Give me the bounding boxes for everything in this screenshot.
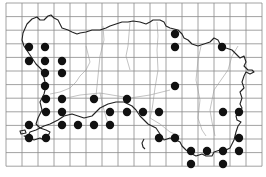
- record-dot: [42, 108, 50, 116]
- harbour-islet: [20, 130, 26, 134]
- elizabeth-castle-islet: [142, 139, 145, 149]
- record-dot: [123, 95, 131, 103]
- record-dot: [219, 147, 227, 155]
- record-dot: [235, 147, 243, 155]
- record-dot: [123, 108, 131, 116]
- record-dot: [42, 95, 50, 103]
- record-dot: [41, 69, 49, 77]
- record-dot: [41, 43, 49, 51]
- record-dot: [41, 82, 49, 90]
- record-dot: [235, 108, 243, 116]
- record-dot: [171, 30, 179, 38]
- record-dot: [139, 108, 147, 116]
- record-dot: [155, 134, 163, 142]
- record-dot: [219, 108, 227, 116]
- record-dot: [74, 121, 82, 129]
- record-dot: [187, 160, 195, 168]
- distribution-map: [0, 0, 266, 177]
- record-dot: [58, 69, 66, 77]
- record-dot: [42, 134, 50, 142]
- record-dot: [155, 108, 163, 116]
- record-dot: [187, 147, 195, 155]
- record-dot: [25, 43, 33, 51]
- record-dot: [235, 134, 243, 142]
- record-dot: [58, 121, 66, 129]
- record-dot: [171, 134, 179, 142]
- record-dot: [58, 95, 66, 103]
- record-dot: [41, 57, 49, 65]
- record-dot: [171, 43, 179, 51]
- record-dot: [25, 121, 33, 129]
- record-dot: [171, 82, 179, 90]
- record-dot: [90, 121, 98, 129]
- record-dot: [90, 95, 98, 103]
- record-dot: [106, 108, 114, 116]
- record-dot: [203, 147, 211, 155]
- record-dot: [25, 57, 33, 65]
- record-dot: [25, 134, 33, 142]
- record-dot: [106, 121, 114, 129]
- record-dot: [58, 57, 66, 65]
- record-dot: [58, 108, 66, 116]
- coastline: [22, 15, 254, 156]
- record-dot: [218, 43, 226, 51]
- record-dot: [219, 160, 227, 168]
- parish-boundaries: [50, 22, 238, 136]
